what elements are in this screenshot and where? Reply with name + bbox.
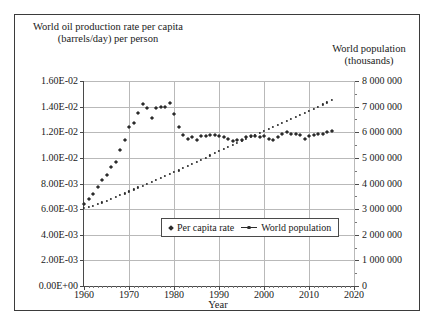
gridline-vertical: [129, 81, 130, 286]
data-point: [82, 202, 86, 206]
y-tick-mark-left: [80, 209, 84, 210]
x-minor-tick: [246, 286, 247, 288]
data-point: [275, 135, 279, 139]
data-point: [194, 138, 198, 142]
data-point: [208, 133, 212, 137]
y-tick-label-right: 6 000 000: [362, 127, 437, 137]
data-point: [290, 118, 292, 120]
x-minor-tick: [300, 286, 301, 288]
y-tick-label-left: 4.00E-03: [8, 230, 78, 240]
legend-label: World population: [261, 222, 331, 233]
data-point: [325, 130, 329, 134]
gridline-vertical: [309, 81, 310, 286]
x-minor-tick: [278, 286, 279, 288]
plot-area: 0.00E+002.00E-034.00E-036.00E-038.00E-03…: [83, 81, 355, 287]
x-minor-tick: [291, 286, 292, 288]
y-tick-label-right: 4 000 000: [362, 179, 437, 189]
x-minor-tick: [237, 286, 238, 288]
y-tick-label-right: 1 000 000: [362, 255, 437, 265]
data-point: [150, 181, 152, 183]
data-point: [127, 125, 131, 129]
data-point: [145, 106, 149, 110]
x-minor-tick: [134, 286, 135, 288]
data-point: [109, 165, 113, 169]
x-minor-tick: [93, 286, 94, 288]
data-point: [217, 134, 221, 138]
data-point: [267, 128, 269, 130]
data-point: [123, 192, 125, 194]
data-point: [155, 179, 157, 181]
data-point: [281, 122, 283, 124]
data-point: [163, 105, 167, 109]
data-point: [141, 184, 143, 186]
data-point: [92, 205, 94, 207]
data-point: [303, 112, 305, 114]
chart-legend: Per capita rate World population: [161, 218, 339, 237]
data-point: [258, 131, 260, 133]
data-point: [122, 138, 126, 142]
data-point: [96, 203, 98, 205]
data-point: [312, 108, 314, 110]
y-tick-label-right: 2 000 000: [362, 230, 437, 240]
data-point: [226, 137, 230, 141]
data-point: [114, 196, 116, 198]
y-tick-mark-left: [80, 184, 84, 185]
data-point: [272, 126, 274, 128]
data-point: [95, 185, 99, 189]
data-point: [140, 102, 144, 106]
x-minor-tick: [143, 286, 144, 288]
line-marker-icon: [241, 227, 257, 228]
x-minor-tick: [260, 286, 261, 288]
x-minor-tick: [273, 286, 274, 288]
legend-item-per-capita-rate: Per capita rate: [169, 222, 234, 233]
x-minor-tick: [228, 286, 229, 288]
x-minor-tick: [156, 286, 157, 288]
data-point: [200, 159, 202, 161]
data-point: [176, 125, 180, 129]
x-minor-tick: [327, 286, 328, 288]
data-point: [159, 177, 161, 179]
x-minor-tick: [296, 286, 297, 288]
y-tick-label-left: 1.60E-02: [8, 76, 78, 86]
x-minor-tick: [197, 286, 198, 288]
x-minor-tick: [98, 286, 99, 288]
data-point: [118, 148, 122, 152]
data-point: [199, 134, 203, 138]
x-minor-tick: [251, 286, 252, 288]
data-point: [87, 206, 89, 208]
data-point: [113, 160, 117, 164]
data-point: [167, 101, 171, 105]
gridline-vertical: [264, 81, 265, 286]
data-point: [105, 200, 107, 202]
y-tick-label-right: 3 000 000: [362, 204, 437, 214]
data-point: [236, 142, 238, 144]
data-point: [110, 198, 112, 200]
data-point: [172, 112, 176, 116]
data-point: [181, 133, 185, 137]
data-point: [101, 201, 103, 203]
data-point: [119, 194, 121, 196]
data-point: [212, 133, 216, 137]
legend-item-world-population: World population: [241, 222, 331, 233]
x-minor-tick: [161, 286, 162, 288]
data-point: [209, 154, 211, 156]
x-minor-tick: [323, 286, 324, 288]
y-tick-label-left: 1.20E-02: [8, 127, 78, 137]
x-minor-tick: [287, 286, 288, 288]
y-tick-label-left: 1.00E-02: [8, 153, 78, 163]
x-minor-tick: [89, 286, 90, 288]
y-tick-label-left: 6.00E-03: [8, 204, 78, 214]
data-point: [137, 186, 139, 188]
x-minor-tick: [125, 286, 126, 288]
y-tick-mark-left: [80, 158, 84, 159]
data-point: [86, 197, 90, 201]
x-minor-tick: [192, 286, 193, 288]
data-point: [100, 178, 104, 182]
y-tick-mark-left: [80, 235, 84, 236]
x-minor-tick: [152, 286, 153, 288]
legend-label: Per capita rate: [177, 222, 234, 233]
x-minor-tick: [332, 286, 333, 288]
x-minor-tick: [165, 286, 166, 288]
left-axis-title: World oil production rate per capita (ba…: [33, 21, 183, 44]
data-point: [321, 103, 323, 105]
